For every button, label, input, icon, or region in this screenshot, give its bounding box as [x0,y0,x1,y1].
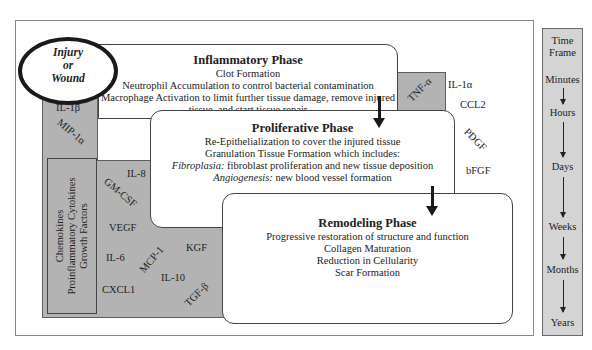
time-step-years: Years [543,317,582,329]
fibroplasia-text: fibroblast proliferation and new tissue … [224,160,433,171]
proliferative-line: Re-Epithelialization to cover the injure… [151,136,454,148]
mediator-il8: IL-8 [127,168,146,179]
mediator-kgf: KGF [186,242,207,253]
mediator-ccl2: CCL2 [460,99,486,110]
remodeling-line: Scar Formation [223,267,512,279]
angiogenesis-label: Angiogenesis: [213,172,273,183]
mediator-bfgf: bFGF [466,165,491,176]
time-frame-title: Time Frame [543,35,582,59]
inflammatory-line: Neutrophil Accumulation to control bacte… [99,80,397,92]
injury-or-text: or [22,59,114,72]
mediator-il6: IL-6 [106,252,125,263]
injury-text: Injury [22,46,114,59]
remodeling-phase-box: Remodeling Phase Progressive restoration… [222,193,513,324]
time-step-weeks: Weeks [543,221,582,233]
arrow-proliferative-to-remodeling-icon [431,186,434,208]
injury-ellipse: Injury or Wound [18,37,118,105]
remodeling-line: Reduction in Cellularity [223,255,512,267]
time-frame-title-line1: Time [543,35,582,47]
proliferative-line: Granulation Tissue Formation which inclu… [151,148,454,160]
proliferative-line-fibroplasia: Fibroplasia: fibroblast proliferation an… [151,160,454,172]
inflammatory-line: Macrophage Activation to limit further t… [99,92,397,104]
arrow-down-icon [563,88,564,104]
mediator-il1a: IL-1α [448,79,472,90]
legend-proinflammatory-cytokines: Proinflammatory Cytokines [66,178,78,295]
proliferative-line-angiogenesis: Angiogenesis: new blood vessel formation [151,172,454,184]
arrow-down-icon [563,122,564,157]
time-step-days: Days [543,161,582,173]
wound-text: Wound [22,72,114,85]
remodeling-phase-title: Remodeling Phase [223,216,512,231]
mediator-cxcl1: CXCL1 [102,284,135,295]
inflammatory-phase-box: Inflammatory Phase Clot Formation Neutro… [98,44,398,119]
mediator-vegf: VEGF [109,222,136,233]
mediator-il10: IL-10 [161,272,185,283]
arrow-inflammatory-to-proliferative-icon [378,96,381,120]
remodeling-line: Collagen Maturation [223,243,512,255]
remodeling-line: Progressive restoration of structure and… [223,231,512,243]
time-step-minutes: Minutes [543,74,582,86]
time-frame-title-line2: Frame [543,47,582,59]
legend-chemokines: Chemokines [54,178,66,295]
time-step-hours: Hours [543,107,582,119]
angiogenesis-text: new blood vessel formation [273,172,392,183]
fibroplasia-label: Fibroplasia: [172,160,225,171]
mediator-legend-box: Chemokines Proinflammatory Cytokines Gro… [47,158,97,314]
arrow-down-icon [563,177,564,217]
arrow-down-icon [563,280,564,312]
legend-growth-factors: Growth Factors [78,178,90,295]
time-step-months: Months [543,264,582,276]
inflammatory-line: Clot Formation [99,68,397,80]
mediator-legend-text: Chemokines Proinflammatory Cytokines Gro… [54,178,90,295]
inflammatory-phase-title: Inflammatory Phase [99,53,397,68]
proliferative-phase-title: Proliferative Phase [151,121,454,136]
time-frame-column: Time Frame Minutes Hours Days Weeks Mont… [542,28,583,336]
arrow-down-icon [563,237,564,259]
